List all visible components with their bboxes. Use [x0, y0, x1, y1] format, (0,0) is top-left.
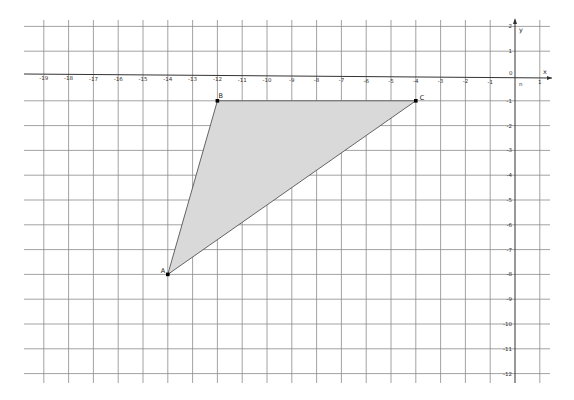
x-tick-labels: -19-18-17-16-15-14-13-12-11-10-9-8-7-6-5… [39, 75, 541, 85]
y-tick-label: -12 [503, 371, 512, 377]
x-tick-label: -2 [463, 78, 468, 84]
y-tick-label: -10 [503, 321, 512, 327]
x-tick-label: -7 [339, 77, 345, 83]
x-axis [24, 74, 552, 78]
y-tick-label: -1 [507, 98, 512, 104]
y-tick-label: 2 [509, 23, 513, 29]
x-tick-label: -8 [314, 77, 320, 83]
y-tick-label: -6 [507, 222, 513, 228]
x-tick-label: -5 [388, 78, 394, 84]
y-tick-label: -8 [507, 271, 513, 277]
y-tick-label: 1 [509, 48, 513, 54]
y-axis-arrow-icon [513, 18, 517, 24]
x-tick-label: -10 [263, 77, 272, 83]
x-tick-label: -3 [438, 78, 444, 84]
y-tick-label: -5 [507, 197, 513, 203]
y-axis-label: y [519, 26, 523, 34]
origin-label: 0 [509, 70, 513, 76]
point-a-label: A [161, 267, 166, 275]
x-tick-label: -9 [289, 77, 295, 83]
x-tick-label: -12 [213, 76, 222, 82]
origin-sub-label: n [519, 81, 523, 87]
y-tick-label: -2 [507, 123, 512, 129]
x-axis-arrow-icon [547, 76, 552, 80]
x-tick-label: -15 [139, 76, 148, 82]
x-tick-label: -16 [114, 76, 123, 82]
x-tick-label: -18 [64, 75, 73, 81]
x-tick-label: -19 [39, 75, 48, 81]
y-tick-label: -9 [507, 296, 513, 302]
x-tick-label: -17 [89, 76, 98, 82]
x-axis-label: x [543, 68, 547, 76]
point-c-marker [414, 99, 418, 103]
x-tick-label: -14 [163, 76, 172, 82]
x-tick-label: -11 [238, 77, 247, 83]
x-tick-label: -6 [363, 78, 369, 84]
coordinate-plane: xy0n -19-18-17-16-15-14-13-12-11-10-9-8-… [0, 0, 574, 400]
x-tick-label: -13 [188, 76, 197, 82]
x-tick-label: -1 [487, 79, 492, 85]
x-tick-label: 1 [538, 79, 542, 85]
y-tick-label: -4 [507, 172, 513, 178]
y-tick-label: -3 [507, 147, 513, 153]
x-tick-label: -4 [413, 78, 419, 84]
point-c-label: C [420, 94, 425, 102]
y-tick-label: -7 [507, 247, 513, 253]
y-tick-label: -11 [503, 346, 512, 352]
axes: xy0n [24, 18, 552, 383]
point-a-marker [166, 273, 170, 277]
point-b-label: B [218, 92, 222, 100]
